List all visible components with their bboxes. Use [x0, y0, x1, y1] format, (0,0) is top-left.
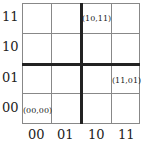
x-label-10: 10	[88, 127, 105, 142]
y-label-01: 01	[2, 70, 19, 85]
x-label-00: 00	[28, 127, 45, 142]
point-10-11: (10,11)	[82, 14, 111, 23]
y-label-11: 11	[2, 9, 19, 24]
y-label-10: 10	[2, 39, 19, 54]
x-label-01: 01	[57, 127, 74, 142]
y-label-00: 00	[2, 100, 19, 115]
x-label-11: 11	[118, 127, 135, 142]
axis-horizontal	[22, 63, 140, 66]
point-11-01: (11,01)	[112, 76, 141, 85]
point-00-00: (00,00)	[23, 106, 52, 115]
